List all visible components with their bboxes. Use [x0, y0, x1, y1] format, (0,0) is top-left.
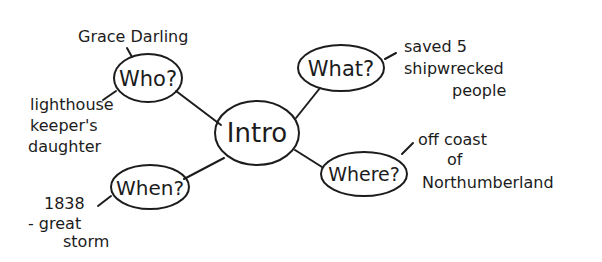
- note-line: lighthouse: [30, 95, 114, 114]
- node-where: Where?: [321, 152, 407, 196]
- note-what: saved 5 shipwrecked people: [404, 37, 506, 100]
- note-line: - great: [28, 214, 81, 233]
- note-line: keeper's: [30, 116, 98, 135]
- node-when-label: When?: [116, 176, 184, 200]
- note-line: storm: [63, 232, 109, 251]
- node-what: What?: [298, 45, 384, 91]
- node-who: Who?: [114, 54, 182, 102]
- connector-intro-who: [176, 91, 221, 125]
- node-who-label: Who?: [119, 67, 177, 91]
- note-line: Northumberland: [422, 173, 554, 192]
- node-what-label: What?: [308, 57, 374, 81]
- connector-who-name: [127, 48, 132, 57]
- note-who-name: Grace Darling: [78, 27, 188, 46]
- note-line: 1838: [44, 194, 85, 213]
- connector-when-note: [98, 196, 111, 206]
- node-where-label: Where?: [328, 163, 400, 185]
- node-intro: Intro: [215, 101, 299, 165]
- connector-intro-what: [296, 88, 320, 118]
- note-line: saved 5: [404, 37, 467, 56]
- note-who-role: lighthouse keeper's daughter: [28, 95, 114, 156]
- connector-where-note: [402, 143, 413, 154]
- note-when: 1838 - great storm: [28, 194, 109, 251]
- note-line: off coast: [418, 130, 487, 149]
- connector-what-note: [385, 53, 396, 59]
- node-intro-label: Intro: [227, 118, 287, 148]
- note-line: of: [447, 150, 463, 169]
- note-where: off coast of Northumberland: [418, 130, 554, 192]
- note-line: people: [452, 81, 506, 100]
- connector-intro-when: [184, 158, 224, 179]
- note-line: daughter: [28, 137, 102, 156]
- note-line: Grace Darling: [78, 27, 188, 46]
- connector-intro-where: [295, 150, 322, 167]
- mind-map-diagram: Intro Who? What? Where? When? Grace Darl…: [0, 0, 602, 262]
- node-when: When?: [111, 165, 189, 209]
- note-line: shipwrecked: [404, 59, 504, 78]
